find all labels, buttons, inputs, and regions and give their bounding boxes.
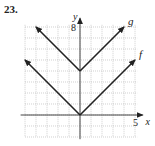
x-axis-label: x bbox=[144, 116, 150, 127]
series-label-f: f bbox=[139, 48, 144, 60]
series-label-g: g bbox=[128, 15, 134, 27]
series-f-right bbox=[80, 60, 135, 115]
x-tick-label: 5 bbox=[133, 117, 138, 128]
graph: xy58gf bbox=[0, 0, 155, 146]
y-tick-label: 8 bbox=[71, 22, 76, 33]
series-f-left bbox=[25, 60, 80, 115]
y-axis-label: y bbox=[72, 11, 78, 22]
